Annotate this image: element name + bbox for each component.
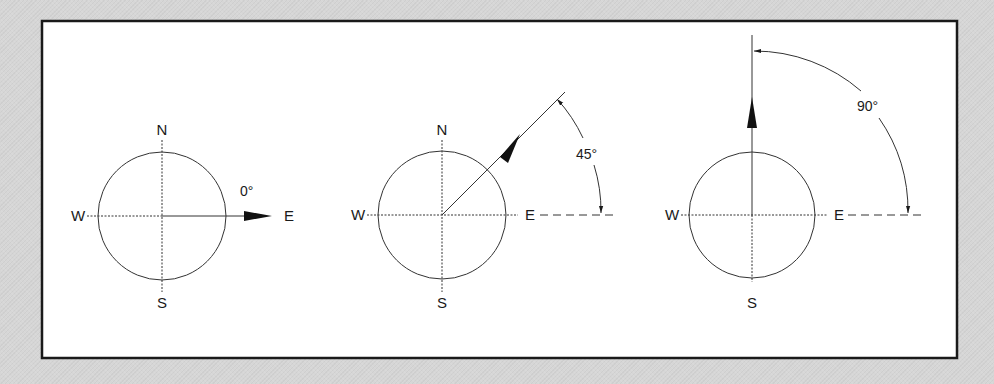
compass-angle-diagram: N S W E 0° N S W E 45° S W E 90°: [0, 0, 994, 384]
label-west: W: [71, 207, 86, 224]
label-east: E: [834, 206, 844, 223]
label-north: N: [157, 121, 168, 138]
label-south: S: [437, 294, 447, 311]
angle-label: 90°: [857, 98, 878, 114]
angle-label: 0°: [240, 183, 253, 199]
label-south: S: [157, 294, 167, 311]
label-west: W: [665, 206, 680, 223]
label-north: N: [437, 121, 448, 138]
angle-label: 45°: [576, 146, 597, 162]
diagram-frame: [42, 21, 957, 358]
label-west: W: [351, 206, 366, 223]
label-south: S: [747, 294, 757, 311]
label-east: E: [525, 206, 535, 223]
label-east: E: [284, 207, 294, 224]
